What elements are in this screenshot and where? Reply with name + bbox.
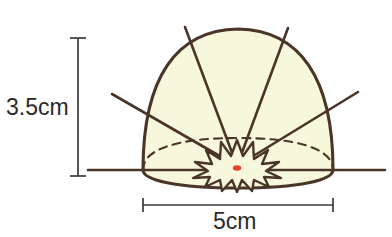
hemisphere-diagram: 3.5cm 5cm: [0, 0, 392, 237]
height-dimension-line: [70, 38, 86, 176]
center-point-dot: [233, 165, 241, 170]
width-dimension-label: 5cm: [213, 208, 256, 235]
height-dimension-label: 3.5cm: [6, 94, 69, 121]
